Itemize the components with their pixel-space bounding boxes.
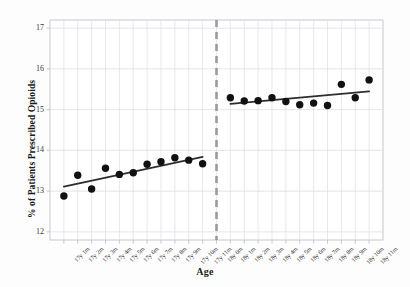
y-axis-tick-label: 14 [28,145,44,154]
scatter-plot-canvas [0,0,410,287]
x-axis-title: Age [0,266,410,277]
y-axis-tick-label: 15 [28,105,44,114]
y-axis-tick-label: 13 [28,186,44,195]
y-axis-tick-label: 16 [28,64,44,73]
chart-figure: % of Patients Prescribed Opioids Age 121… [0,0,410,287]
y-axis-tick-label: 12 [28,227,44,236]
y-axis-tick-label: 17 [28,23,44,32]
